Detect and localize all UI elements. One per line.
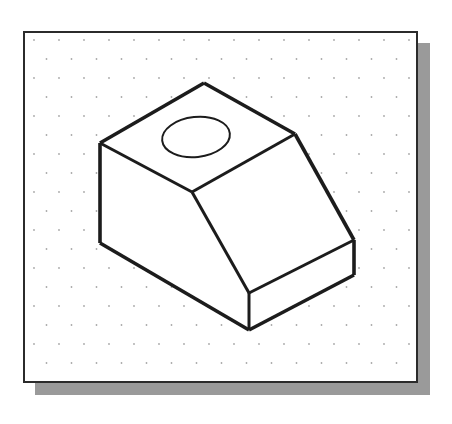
isometric-dot-paper-sheet: [23, 31, 418, 383]
isometric-block-figure: [25, 33, 416, 381]
drawing-canvas: [0, 0, 452, 424]
